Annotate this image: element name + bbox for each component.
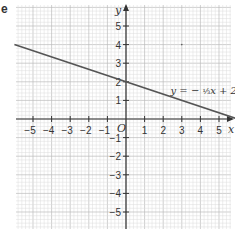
x-tick-label: 1 [142, 125, 148, 136]
y-tick-label: −2 [110, 151, 122, 162]
y-tick-label: −3 [110, 170, 122, 181]
equation-label: y = − ⅓x + 2 [170, 85, 236, 96]
x-tick-label: −3 [61, 125, 73, 136]
y-tick-label: 5 [115, 21, 121, 32]
graph-plot: −5−4−3−2−112345−5−4−3−2−112345xyOy = − ⅓… [0, 0, 235, 229]
y-tick-label: −4 [110, 188, 122, 199]
equation-rest: x + 2 [210, 85, 235, 96]
x-tick-label: −5 [24, 125, 36, 136]
x-tick-label: 5 [216, 125, 222, 136]
y-tick-label: 1 [115, 95, 121, 106]
x-tick-label: −4 [43, 125, 55, 136]
x-tick-label: −2 [80, 125, 92, 136]
y-tick-label: 3 [115, 58, 121, 69]
y-tick-label: −5 [110, 207, 122, 218]
x-axis-label: x [228, 123, 235, 136]
x-tick-label: 2 [160, 125, 166, 136]
x-tick-label: 4 [198, 125, 204, 136]
origin-label: O [117, 122, 126, 135]
y-tick-label: 4 [115, 40, 121, 51]
y-axis-label: y [114, 4, 122, 17]
x-tick-label: 3 [179, 125, 185, 136]
point-marker [181, 44, 183, 46]
